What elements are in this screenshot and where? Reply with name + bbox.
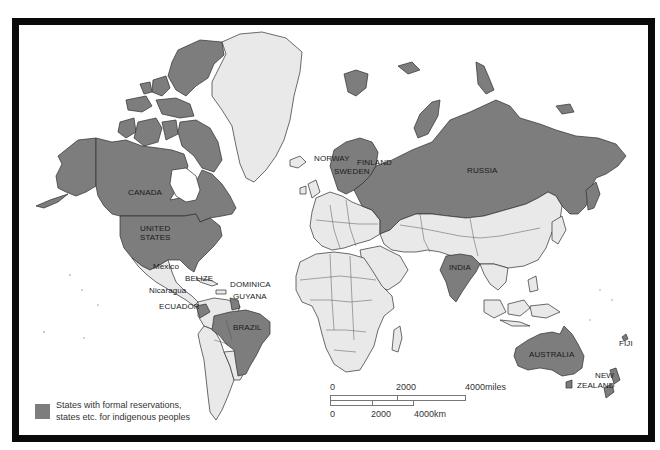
scale-km-start: 0	[330, 409, 335, 419]
scale-bar: 0 2000 4000miles 0 2000 4000km	[330, 382, 520, 432]
label-australia: AUSTRALIA	[529, 350, 574, 360]
label-nicaragua: Nicaragua	[149, 286, 186, 296]
label-sweden: SWEDEN	[334, 167, 370, 177]
label-norway: NORWAY	[314, 154, 350, 164]
legend-text: States with formal reservations, states …	[56, 399, 190, 423]
scale-km-tick	[372, 400, 373, 406]
label-mexico: Mexico	[153, 262, 179, 272]
legend-line-1: States with formal reservations,	[56, 399, 190, 411]
scale-miles-mid: 2000	[396, 382, 416, 392]
greenland-shape	[212, 32, 302, 182]
label-canada: CANADA	[128, 188, 162, 198]
label-new-zealand-line2: ZEALAND	[577, 381, 615, 391]
scale-miles-end: 4000miles	[465, 382, 506, 392]
label-guyana: GUYANA	[233, 292, 267, 302]
legend-swatch-highlighted	[35, 404, 50, 419]
label-russia: RUSSIA	[467, 166, 497, 176]
map-legend: States with formal reservations, states …	[35, 399, 190, 423]
label-fiji: FIJI	[619, 339, 633, 349]
scale-km-end: 4000km	[414, 409, 446, 419]
legend-line-2: states etc. for indigenous peoples	[56, 411, 190, 423]
scale-miles-start: 0	[330, 382, 335, 392]
label-india: INDIA	[449, 263, 471, 273]
india-shape	[440, 254, 480, 302]
label-united-states-line2: STATES	[140, 233, 171, 243]
label-belize: BELIZE	[185, 274, 213, 284]
label-brazil: BRAZIL	[233, 323, 262, 333]
label-new-zealand-line1: NEW	[595, 371, 614, 381]
scale-km-mid: 2000	[371, 409, 391, 419]
label-ecuador: ECUADOR	[159, 302, 200, 312]
label-dominica: DOMINICA	[230, 280, 271, 290]
